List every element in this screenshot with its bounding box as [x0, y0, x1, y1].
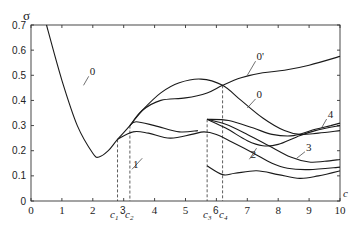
- curve-label-0_2: 0: [257, 88, 263, 100]
- x-tick-label: 1: [59, 204, 65, 216]
- y-axis-label: σ: [23, 8, 30, 23]
- c3-label: c3: [203, 208, 212, 222]
- leader-3: [297, 152, 305, 159]
- sigma-vs-c-chart: 012457891000.10.20.30.40.50.60.7 00'0123…: [0, 0, 359, 228]
- c4-label: c4: [219, 208, 228, 222]
- curve-label-2: 2: [250, 148, 256, 160]
- curve-label-1: 1: [133, 158, 139, 170]
- leader-0_2: [247, 99, 255, 108]
- x-axis-label: c: [343, 187, 348, 199]
- axes: [31, 25, 340, 201]
- c2-label: c2: [125, 208, 134, 222]
- x-tick-label: 4: [152, 204, 158, 216]
- critical-point-labels: c1 3 c2 c3 6 c4: [110, 205, 228, 222]
- y-tick-label: 0.5: [12, 70, 26, 81]
- curve-upper-branch-after-c2: [130, 122, 198, 132]
- c1-label: c1: [110, 208, 118, 222]
- x-tick-label: 7: [245, 204, 251, 216]
- curve-label-3: 3: [306, 141, 312, 153]
- x-tick-label: 8: [275, 204, 281, 216]
- curve-lower-branch: [207, 166, 340, 179]
- y-tick-label: 0.1: [12, 170, 26, 181]
- y-tick-label: 0.2: [12, 145, 26, 156]
- x-tick-label: 10: [335, 204, 347, 216]
- leader-0prime: [247, 61, 255, 75]
- x-tick-label: 2: [90, 204, 96, 216]
- x-tick-label: 9: [306, 204, 312, 216]
- x-tick-label: 0: [28, 204, 34, 216]
- y-tick-label: 0.6: [12, 45, 26, 56]
- curve-label-leaders: [84, 61, 327, 169]
- curve-label-0prime: 0': [257, 50, 265, 62]
- curves: [47, 25, 341, 178]
- leader-0_1: [84, 76, 89, 85]
- curve-label-4: 4: [328, 108, 334, 120]
- curve-3: [207, 119, 340, 162]
- curve-label-0_1: 0: [90, 65, 96, 77]
- y-tick-label: 0.4: [12, 95, 26, 106]
- y-tick-label: 0.3: [12, 120, 26, 131]
- x-tick-label: 5: [183, 204, 189, 216]
- curve-0prime: [130, 56, 340, 125]
- axis-ticks: 012457891000.10.20.30.40.50.60.7: [12, 20, 346, 217]
- critical-point-markers: [118, 85, 223, 201]
- y-tick-label: 0: [20, 196, 26, 207]
- plot-frame: [31, 25, 340, 201]
